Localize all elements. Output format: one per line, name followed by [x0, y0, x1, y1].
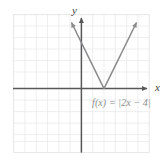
- left-ray: [72, 23, 105, 89]
- right-ray: [104, 23, 137, 89]
- y-axis-label: y: [72, 5, 77, 16]
- graph-figure: y x f(x) = |2x − 4|: [0, 0, 167, 168]
- function-equation-label: f(x) = |2x − 4|: [92, 98, 151, 108]
- coordinate-plane: [0, 0, 167, 168]
- x-axis-label: x: [155, 82, 160, 93]
